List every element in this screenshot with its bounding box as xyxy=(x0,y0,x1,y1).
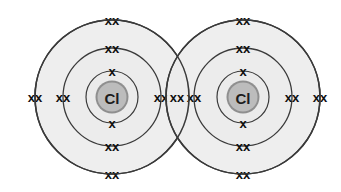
cl2-dot-cross-diagram: Cl x x xx xx xx xx xx xx xx Cl x xyxy=(0,0,341,192)
atom-right-middle-electron-pair-bottom: xx xyxy=(236,139,251,154)
atom-left-middle-electron-pair-top: xx xyxy=(105,41,120,56)
atom-left: Cl x x xx xx xx xx xx xx xx xyxy=(28,13,189,182)
atom-right-element-symbol: Cl xyxy=(236,90,251,107)
shared-electron-pair: xx xyxy=(170,90,185,105)
diagram-canvas: Cl x x xx xx xx xx xx xx xx Cl x xyxy=(0,0,341,192)
atom-right-middle-electron-pair-top: xx xyxy=(236,41,251,56)
atom-right: Cl x x xx xx xx xx xx xx xx xyxy=(166,13,328,182)
atom-right-middle-electron-pair-right: xx xyxy=(285,90,300,105)
atom-left-element-symbol: Cl xyxy=(105,90,120,107)
atom-left-inner-electron-top: x xyxy=(108,64,116,79)
covalent-bond-group: xx xyxy=(170,90,185,105)
atom-left-middle-electron-pair-left: xx xyxy=(56,90,71,105)
atom-left-middle-electron-pair-bottom: xx xyxy=(105,139,120,154)
atom-right-inner-electron-top: x xyxy=(239,64,247,79)
atom-left-inner-electron-bottom: x xyxy=(108,116,116,131)
atom-right-inner-electron-bottom: x xyxy=(239,116,247,131)
